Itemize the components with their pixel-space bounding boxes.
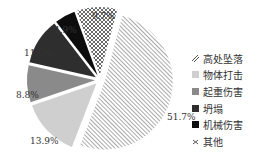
pct-label-mechanical: 4.9% xyxy=(54,25,77,35)
cross-hatch-icon xyxy=(192,138,199,145)
legend-label: 物体打击 xyxy=(203,67,243,82)
legend-label: 起重伤害 xyxy=(203,84,243,99)
pct-label-lifting: 8.8% xyxy=(16,90,39,100)
chart-legend: 高处坠落 物体打击 起重伤害 坍塌 机械伤害 其他 xyxy=(192,50,243,150)
legend-label: 坍塌 xyxy=(203,101,223,116)
legend-label: 其他 xyxy=(203,134,223,149)
legend-item-object-strike: 物体打击 xyxy=(192,67,243,84)
legend-item-other: 其他 xyxy=(192,133,243,150)
light-gray-swatch-icon xyxy=(192,71,199,78)
legend-item-falling: 高处坠落 xyxy=(192,50,243,67)
legend-item-collapse: 坍塌 xyxy=(192,100,243,117)
legend-item-lifting: 起重伤害 xyxy=(192,83,243,100)
pct-label-other: 9.7% xyxy=(92,11,115,21)
legend-item-mechanical: 机械伤害 xyxy=(192,116,243,133)
diagonal-hatch-icon xyxy=(192,55,199,62)
dark-gray-swatch-icon xyxy=(192,105,199,112)
black-swatch-icon xyxy=(192,121,199,128)
legend-label: 高处坠落 xyxy=(203,51,243,66)
pct-label-collapse: 11.0% xyxy=(24,48,53,58)
mid-gray-swatch-icon xyxy=(192,88,199,95)
pct-label-object-strike: 13.9% xyxy=(30,136,59,146)
legend-label: 机械伤害 xyxy=(203,117,243,132)
